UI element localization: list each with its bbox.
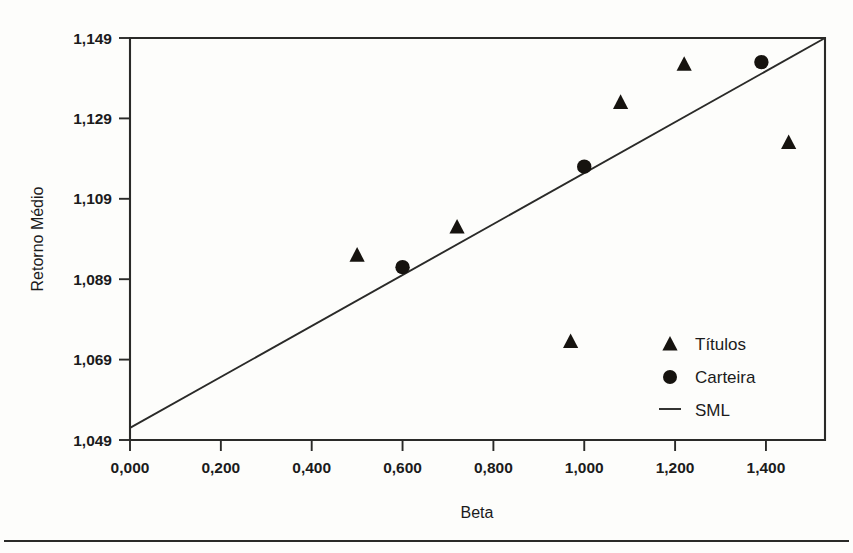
titulos-point [449, 219, 464, 234]
y-tick-label: 1,149 [73, 30, 112, 47]
y-tick-label: 1,049 [73, 432, 112, 449]
titulos-point [781, 135, 796, 150]
y-axis-tick-labels: 1,0491,0691,0891,1091,1291,149 [73, 30, 112, 449]
y-tick-label: 1,089 [73, 271, 112, 288]
titulos-series-markers [350, 56, 797, 348]
carteira-point [395, 260, 409, 274]
y-tick-label: 1,109 [73, 190, 112, 207]
y-tick-label: 1,069 [73, 351, 112, 368]
x-tick-label: 0,200 [201, 459, 240, 476]
titulos-point [613, 94, 628, 109]
x-axis-ticks [130, 440, 766, 451]
y-axis-ticks [119, 38, 130, 440]
y-axis-title: Retorno Médio [29, 186, 46, 291]
x-axis-title: Beta [461, 504, 494, 521]
x-tick-label: 0,000 [111, 459, 150, 476]
titulos-point [563, 334, 578, 349]
legend-circle-icon [663, 370, 677, 384]
x-axis-tick-labels: 0,0000,2000,4000,6000,8001,0001,2001,400 [111, 459, 786, 476]
carteira-series-markers [395, 55, 768, 274]
titulos-point [677, 56, 692, 71]
x-tick-label: 0,400 [292, 459, 331, 476]
x-tick-label: 1,000 [565, 459, 604, 476]
legend-triangle-icon [662, 336, 677, 351]
chart-legend: TítulosCarteiraSML [659, 335, 756, 420]
legend-label: Carteira [695, 368, 756, 387]
x-tick-label: 1,200 [656, 459, 695, 476]
x-tick-label: 1,400 [747, 459, 786, 476]
carteira-point [754, 55, 768, 69]
x-tick-label: 0,800 [474, 459, 513, 476]
carteira-point [577, 159, 591, 173]
legend-label: SML [695, 401, 730, 420]
chart-figure: 1,0491,0691,0891,1091,1291,149 0,0000,20… [0, 0, 853, 553]
y-tick-label: 1,129 [73, 110, 112, 127]
titulos-point [350, 247, 365, 262]
x-tick-label: 0,600 [383, 459, 422, 476]
legend-label: Títulos [695, 335, 746, 354]
scatter-plot: 1,0491,0691,0891,1091,1291,149 0,0000,20… [0, 0, 853, 553]
